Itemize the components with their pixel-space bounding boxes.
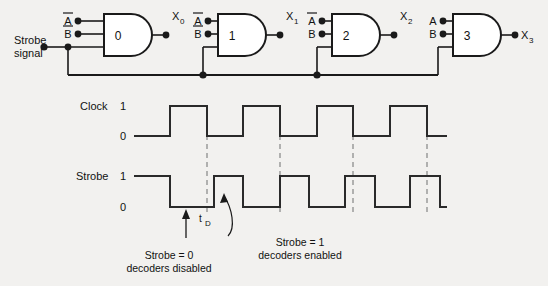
gate-3-input-a-dot (440, 18, 447, 25)
gate-0-number: 0 (115, 29, 122, 43)
strobe-signal-label-line2: signal (14, 47, 43, 59)
strobe-low-note-line2: decoders disabled (126, 262, 211, 274)
diagram-svg: 0 A B X 0 1 A B X 1 (0, 0, 548, 286)
gate-0-output-label: X (172, 10, 180, 22)
strobe-high-note-line1: Strobe = 1 (276, 236, 325, 248)
gate-3-input-b-label: B (429, 28, 436, 40)
gate-3-output-dot (512, 32, 519, 39)
gate-1-output-dot (277, 32, 284, 39)
gate-3-body[interactable] (453, 14, 501, 56)
strobe-signal-label-line1: Strobe (14, 34, 46, 46)
gate-1-input-b-dot (205, 31, 212, 38)
strobe-low-note-line1: Strobe = 0 (145, 249, 194, 261)
gate-3-number: 3 (464, 29, 471, 43)
gate-1-input-b-label: B (194, 28, 201, 40)
figure-canvas: 0 A B X 0 1 A B X 1 (0, 0, 548, 286)
gate-1-number: 1 (229, 29, 236, 43)
gate-3-output-label: X (521, 29, 529, 41)
strobe-junction-gate-2 (313, 71, 320, 78)
gate-2-output-dot (391, 32, 398, 39)
delay-marker-subscript: D (205, 219, 211, 228)
clock-name-label: Clock (80, 100, 108, 112)
gate-0-input-a-label: A (64, 15, 72, 27)
gate-1-output-label: X (286, 10, 294, 22)
gate-1-input-a-label: A (194, 15, 202, 27)
gate-2-input-b-label: B (308, 28, 315, 40)
strobe-low-label: 0 (120, 201, 126, 213)
clock-high-label: 1 (120, 100, 126, 112)
clock-low-label: 0 (120, 130, 126, 142)
gate-2-output-label: X (400, 10, 408, 22)
gate-1-input-a-dot (205, 18, 212, 25)
gate-0-output-dot (163, 32, 170, 39)
strobe-junction-gate-1 (199, 71, 206, 78)
gate-3-input-b-dot (440, 31, 447, 38)
gate-2-body[interactable] (332, 14, 380, 56)
gate-0-body[interactable] (104, 14, 152, 56)
gate-0-input-b-label: B (64, 28, 71, 40)
gate-0-input-b-dot (75, 31, 82, 38)
gate-1-output-subscript: 1 (294, 17, 299, 26)
gate-3-output-subscript: 3 (529, 36, 534, 45)
gate-2-number: 2 (343, 29, 350, 43)
gate-2-input-a-dot (319, 18, 326, 25)
gate-2-output-subscript: 2 (408, 17, 413, 26)
delay-marker-symbol: t (199, 213, 202, 224)
strobe-name-label: Strobe (76, 170, 108, 182)
gate-2-input-b-dot (319, 31, 326, 38)
gate-0-output-subscript: 0 (180, 17, 185, 26)
strobe-high-note-line2: decoders enabled (258, 249, 342, 261)
gate-0-input-a-dot (75, 18, 82, 25)
strobe-high-label: 1 (120, 170, 126, 182)
gate-1-body[interactable] (218, 14, 266, 56)
gate-3-input-a-label: A (429, 15, 437, 27)
gate-2-input-a-label: A (308, 15, 316, 27)
